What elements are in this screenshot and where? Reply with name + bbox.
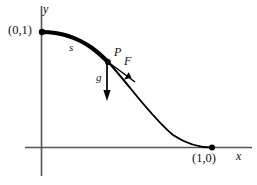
label-y-axis: y xyxy=(43,3,48,15)
marker-dot-origin xyxy=(39,29,45,35)
label-particle-p: P xyxy=(114,46,121,58)
label-arc-length: s xyxy=(69,42,73,53)
label-gravity-g: g xyxy=(96,72,102,83)
curve-thin-segment xyxy=(108,62,212,148)
curve-bold-segment xyxy=(42,32,108,62)
figure-canvas xyxy=(0,0,257,185)
gravity-arrow-head xyxy=(103,90,110,101)
label-end-point: (1,0) xyxy=(192,152,216,165)
marker-dot-P xyxy=(105,59,111,65)
label-origin-point: (0,1) xyxy=(8,24,32,37)
brachistochrone-figure: (0,1) (1,0) x y s P F g xyxy=(0,0,257,185)
label-force-f: F xyxy=(124,55,131,67)
label-x-axis: x xyxy=(236,150,241,162)
marker-dot-end xyxy=(209,145,215,151)
